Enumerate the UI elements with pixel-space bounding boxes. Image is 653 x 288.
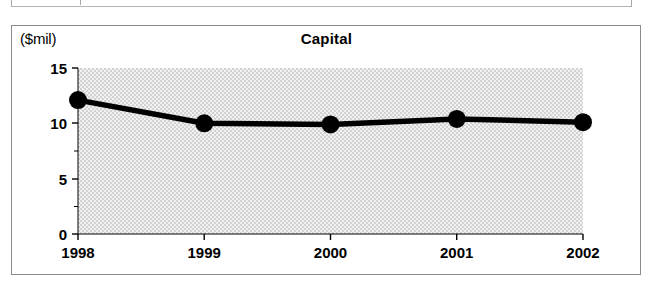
data-point-2001	[448, 110, 466, 128]
x-tick-label-1999: 1999	[188, 244, 221, 261]
data-point-2000	[322, 115, 340, 133]
x-tick-label-2001: 2001	[440, 244, 473, 261]
y-tick-label-15: 15	[50, 60, 67, 77]
y-tick-label-10: 10	[50, 115, 67, 132]
plot-area-container: 15 10 5 0 1998 1999 2000 2001 2002	[0, 0, 653, 288]
x-tick-label-2002: 2002	[566, 244, 599, 261]
y-tick-label-5: 5	[59, 171, 67, 188]
data-point-1998	[69, 91, 87, 109]
x-tick-label-1998: 1998	[61, 244, 94, 261]
x-tick-label-2000: 2000	[314, 244, 347, 261]
y-tick-label-0: 0	[59, 226, 67, 243]
data-point-2002	[574, 113, 592, 131]
plot-background	[78, 68, 583, 234]
y-axis-minor-ticks	[74, 96, 78, 207]
line-chart-svg: 15 10 5 0 1998 1999 2000 2001 2002	[0, 0, 653, 288]
data-point-1999	[195, 114, 213, 132]
x-axis-ticks	[78, 234, 583, 240]
